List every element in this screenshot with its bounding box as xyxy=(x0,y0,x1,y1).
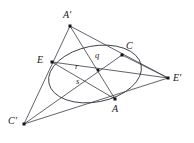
line-Aprime-Eprime xyxy=(70,26,168,78)
line-E-A xyxy=(52,62,115,99)
vertex-A xyxy=(114,98,117,101)
point-label-A: A xyxy=(112,104,118,114)
vertex-E-prime xyxy=(167,77,170,80)
point-label-C-prime: C' xyxy=(8,116,17,126)
point-label-E: E xyxy=(37,55,43,65)
line-Cprime-C xyxy=(24,55,122,124)
segment-label-r: r xyxy=(75,62,78,71)
line-E-Eprime xyxy=(52,62,168,78)
geometry-figure: A'ECE'AC' rqs xyxy=(0,0,194,143)
vertex-E xyxy=(51,61,54,64)
point-label-A-prime: A' xyxy=(63,10,71,20)
vertex-A-prime xyxy=(69,25,72,28)
lines-group xyxy=(24,26,168,124)
point-label-E-prime: E' xyxy=(173,73,181,83)
segment-label-s: s xyxy=(76,77,79,86)
geometry-canvas xyxy=(0,0,194,143)
point-label-C: C xyxy=(126,41,133,51)
segment-label-q: q xyxy=(95,51,99,60)
vertex-C xyxy=(121,54,124,57)
line-Aprime-Cprime xyxy=(24,26,70,124)
vertex-O xyxy=(97,69,100,72)
line-Cprime-Eprime xyxy=(24,78,168,124)
vertex-C-prime xyxy=(23,123,26,126)
